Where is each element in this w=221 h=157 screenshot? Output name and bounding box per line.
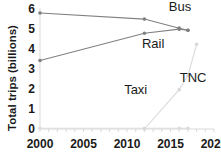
data-point	[143, 31, 147, 35]
data-point	[177, 27, 181, 31]
chart-svg: Total trips (billions) 6 5 4 3 2 1 0 200…	[0, 0, 221, 157]
y-tick-label-3: 3	[28, 62, 35, 76]
data-point	[143, 127, 147, 131]
data-point	[38, 126, 42, 130]
data-point	[195, 43, 199, 47]
y-axis-title: Total trips (billions)	[6, 25, 18, 131]
series-label-rail: Rail	[142, 36, 165, 51]
data-point	[38, 11, 42, 15]
series-label-tnc: TNC	[180, 70, 207, 85]
x-tick-label-2020: 2020	[201, 137, 221, 151]
y-tick-label-5: 5	[28, 22, 35, 36]
y-tick-label-0: 0	[28, 122, 35, 136]
line-chart: Total trips (billions) 6 5 4 3 2 1 0 200…	[0, 0, 221, 157]
data-point	[143, 17, 147, 21]
x-tick-label-2005: 2005	[70, 137, 97, 151]
x-tick-label-2010: 2010	[114, 137, 141, 151]
y-tick-label-4: 4	[28, 42, 35, 56]
data-point	[186, 126, 190, 130]
y-tick-label-2: 2	[28, 82, 35, 96]
x-tick-label-2015: 2015	[157, 137, 184, 151]
y-tick-label-1: 1	[28, 102, 35, 116]
y-tick-label-6: 6	[28, 2, 35, 16]
data-point	[186, 28, 190, 32]
series-label-taxi: Taxi	[124, 82, 147, 97]
data-point	[177, 126, 181, 130]
series-label-bus: Bus	[169, 0, 192, 14]
data-point	[177, 88, 181, 92]
data-point	[38, 59, 42, 63]
x-tick-label-2000: 2000	[27, 137, 54, 151]
